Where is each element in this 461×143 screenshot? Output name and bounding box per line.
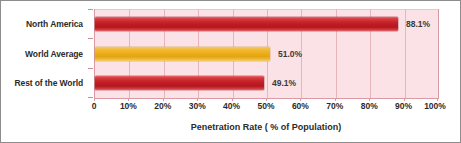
bar-value-rest-of-the-world: 49.1%: [272, 76, 296, 90]
bar-row: 88.1%: [95, 9, 439, 39]
x-tick-label-90: 90%: [395, 101, 412, 112]
category-label-north-america: North America: [1, 19, 83, 29]
x-tick-label-70: 70%: [326, 101, 343, 112]
bar-world-average: [95, 47, 270, 61]
bar-value-north-america: 88.1%: [406, 17, 430, 31]
category-axis: North America World Average Rest of the …: [1, 9, 87, 98]
bar-row: 49.1%: [95, 68, 439, 98]
x-tick-label-80: 80%: [361, 101, 378, 112]
plot-area: 88.1% 51.0% 49.1%: [94, 9, 439, 99]
x-tick-label-20: 20%: [154, 101, 171, 112]
x-tick-label-0: 0: [92, 101, 97, 112]
x-axis-tick-labels: 0 10% 20% 30% 40% 50% 60% 70% 80% 90% 10…: [94, 101, 438, 113]
bar-rest-of-the-world: [95, 76, 264, 90]
category-label-rest-of-the-world: Rest of the World: [1, 78, 83, 88]
bar-chart-figure: North America World Average Rest of the …: [0, 0, 461, 143]
x-tick-label-60: 60%: [292, 101, 309, 112]
category-tick-mark: [88, 9, 93, 10]
x-tick-label-40: 40%: [223, 101, 240, 112]
x-tick-label-30: 30%: [189, 101, 206, 112]
bar-row: 51.0%: [95, 39, 439, 69]
bar-value-world-average: 51.0%: [278, 47, 302, 61]
x-tick-label-100: 100%: [424, 101, 446, 112]
category-tick-mark: [88, 68, 93, 69]
category-tick-mark: [88, 38, 93, 39]
x-tick-label-10: 10%: [120, 101, 137, 112]
category-tick-mark: [88, 97, 93, 98]
bar-north-america: [95, 17, 398, 31]
x-axis-title: Penetration Rate ( % of Population): [94, 122, 438, 132]
x-tick-label-50: 50%: [257, 101, 274, 112]
category-label-world-average: World Average: [1, 49, 83, 59]
